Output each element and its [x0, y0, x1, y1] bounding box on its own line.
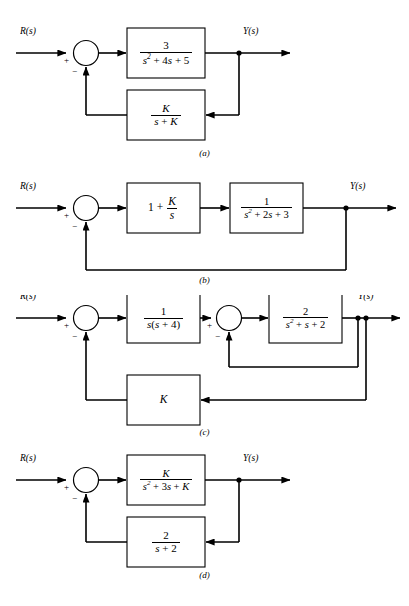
forward-block-label: K s2 + 3s + K [127, 455, 205, 505]
block-diagram-page: 3 s2 + 4s + 5 K s + K [0, 0, 409, 606]
figure-c: 1 s(s + 4) 2 s2 + s + 2 [0, 295, 409, 440]
output-label: Y(s) [243, 26, 293, 36]
summer-sign-plus: + [64, 55, 78, 65]
summer-sign-plus: + [64, 210, 78, 220]
figure-caption-c: (c) [0, 427, 409, 437]
first-plant-block-label: 1 s(s + 4) [127, 295, 200, 343]
output-label: Y(s) [243, 453, 293, 463]
feedback-block-label: K s + K [127, 90, 205, 140]
outer-summer-sign-plus: + [64, 320, 78, 330]
figure-a: 3 s2 + 4s + 5 K s + K [0, 0, 409, 170]
figure-b: 1 + K s 1 s2 + 2s + 3 [0, 170, 409, 295]
outer-summer-sign-minus: − [72, 331, 86, 341]
input-label: R(s) [20, 295, 70, 301]
output-label: Y(s) [350, 181, 400, 191]
input-label: R(s) [20, 181, 70, 191]
figure-d-svg: K s2 + 3s + K 2 s + 2 [0, 440, 409, 606]
figure-a-svg: 3 s2 + 4s + 5 K s + K [0, 0, 409, 170]
figure-caption-d: (d) [0, 570, 409, 580]
figure-caption-b: (b) [0, 275, 409, 285]
output-label: Y(s) [358, 295, 408, 301]
plant-block-label: 1 s2 + 2s + 3 [230, 183, 303, 233]
feedback-block-label: 2 s + 2 [127, 517, 205, 567]
figure-c-svg: 1 s(s + 4) 2 s2 + s + 2 [0, 295, 409, 440]
summer-sign-minus: − [72, 221, 86, 231]
controller-block-label: 1 + K s [127, 183, 200, 233]
forward-block-label: 3 s2 + 4s + 5 [127, 28, 205, 78]
summer-sign-minus: − [72, 493, 86, 503]
input-label: R(s) [20, 453, 70, 463]
inner-summer-sign-minus: − [215, 331, 229, 341]
input-label: R(s) [20, 26, 70, 36]
figure-d: K s2 + 3s + K 2 s + 2 [0, 440, 409, 606]
summer-sign-plus: + [64, 482, 78, 492]
inner-summer-sign-plus: + [207, 320, 221, 330]
figure-caption-a: (a) [0, 148, 409, 158]
summer-sign-minus: − [72, 66, 86, 76]
gain-block-label: K [127, 375, 200, 425]
second-plant-block-label: 2 s2 + s + 2 [269, 295, 342, 343]
